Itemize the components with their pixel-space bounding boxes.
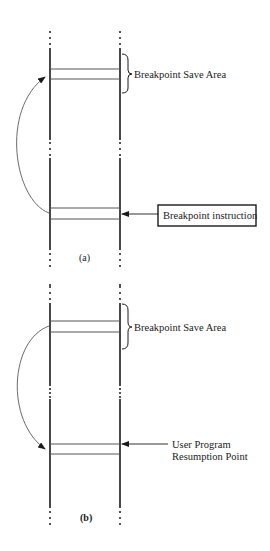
- breakpoint-instruction-cell: [50, 208, 120, 219]
- caption-a: (a): [79, 252, 90, 264]
- curved-arrow-up-icon: [17, 77, 49, 213]
- save-area-cell-a: [50, 69, 120, 79]
- panel-b: Breakpoint Save Area User Program Resump…: [17, 286, 247, 525]
- breakpoint-diagram: Breakpoint Save Area Breakpoint instruct…: [0, 0, 270, 551]
- brace-icon-b: [122, 304, 132, 349]
- brace-icon-a: [122, 54, 132, 93]
- continuation-dots-b: [49, 286, 121, 525]
- resumption-label-line1: User Program: [172, 439, 231, 450]
- curved-arrow-down-icon: [17, 326, 49, 449]
- resumption-label-line2: Resumption Point: [172, 451, 248, 462]
- save-area-label-b: Breakpoint Save Area: [134, 322, 226, 333]
- breakpoint-instruction-label: Breakpoint instruction: [163, 210, 258, 221]
- resumption-point-cell: [50, 444, 120, 454]
- panel-a: Breakpoint Save Area Breakpoint instruct…: [17, 31, 258, 286]
- save-area-label-a: Breakpoint Save Area: [134, 69, 226, 80]
- caption-b: (b): [80, 512, 92, 524]
- save-area-cell-b: [50, 321, 120, 332]
